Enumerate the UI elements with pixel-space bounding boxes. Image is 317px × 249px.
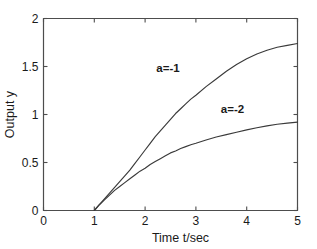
x-tick-labels: 012345 — [40, 214, 301, 228]
x-axis-label: Time t/sec — [152, 231, 209, 245]
curve-annotations: a=-1a=-2 — [156, 62, 244, 114]
chart-figure: 012345 00.511.52 a=-1a=-2 Time t/secOutp… — [0, 0, 317, 249]
y-axis-label: Output y — [3, 90, 17, 138]
line-chart: 012345 00.511.52 a=-1a=-2 Time t/secOutp… — [0, 0, 317, 249]
curve-label: a=-1 — [156, 62, 180, 74]
plot-box — [44, 19, 298, 211]
y-tick-label: 0.5 — [22, 156, 39, 170]
x-tick-label: 5 — [294, 214, 301, 228]
x-tick-label: 4 — [243, 214, 250, 228]
curve-label: a=-2 — [221, 103, 244, 115]
y-tick-label: 0 — [32, 204, 39, 218]
y-tick-label: 2 — [32, 12, 39, 26]
series-curve-a1 — [94, 43, 297, 210]
series-curve-a2 — [94, 122, 297, 210]
plot-axes — [44, 19, 298, 211]
x-tick-label: 1 — [91, 214, 98, 228]
x-tick-label: 2 — [142, 214, 149, 228]
y-tick-label: 1 — [32, 108, 39, 122]
x-tick-label: 3 — [193, 214, 200, 228]
x-tick-label: 0 — [40, 214, 47, 228]
data-curves — [94, 43, 297, 210]
y-tick-label: 1.5 — [22, 60, 39, 74]
axis-ticks — [44, 19, 298, 211]
y-tick-labels: 00.511.52 — [22, 12, 39, 218]
